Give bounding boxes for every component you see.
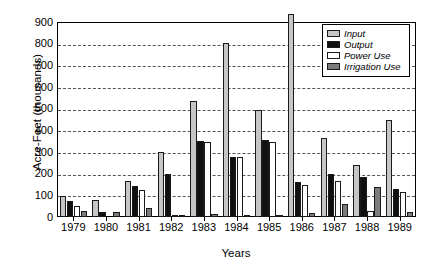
- bar-input-1981: [125, 181, 131, 217]
- bar-irrigation-use-1988: [374, 187, 380, 217]
- bar-power-use-1985: [269, 142, 275, 217]
- bar-input-1985: [255, 110, 261, 217]
- bar-irrigation-use-1984: [244, 215, 250, 217]
- legend-label-input: Input: [344, 29, 365, 39]
- legend-label-irrigation-use: Irrigation Use: [344, 62, 401, 72]
- y-tick-200: 200: [13, 168, 53, 179]
- x-tick-mark-1988: [367, 217, 368, 221]
- bar-input-1980: [92, 200, 98, 217]
- bar-power-use-1987: [335, 181, 341, 217]
- bar-input-1987: [321, 138, 327, 217]
- legend-swatch-output-icon: [327, 41, 340, 48]
- bar-group-1982: [158, 12, 185, 217]
- bar-input-1982: [158, 152, 164, 217]
- legend-swatch-input-icon: [327, 30, 340, 37]
- legend-item-output: Output: [327, 40, 405, 51]
- bar-irrigation-use-1980: [113, 212, 119, 217]
- y-tick-500: 500: [13, 103, 53, 114]
- bar-input-1984: [223, 43, 229, 217]
- bar-irrigation-use-1989: [407, 212, 413, 217]
- bar-output-1989: [393, 189, 399, 217]
- x-tick-mark-1981: [139, 217, 140, 221]
- x-tick-mark-1989: [400, 217, 401, 221]
- x-tick-mark-1984: [237, 217, 238, 221]
- bar-input-1979: [60, 196, 66, 217]
- bar-input-1986: [288, 14, 294, 217]
- bar-input-1988: [353, 165, 359, 217]
- bar-power-use-1982: [172, 215, 178, 217]
- x-tick-mark-1986: [302, 217, 303, 221]
- bar-chart: Acre-Feet (thousands) 010020030040050060…: [0, 0, 432, 270]
- bar-power-use-1989: [400, 192, 406, 217]
- bar-irrigation-use-1985: [276, 215, 282, 217]
- x-tick-mark-1979: [73, 217, 74, 221]
- bar-group-1985: [255, 12, 282, 217]
- bar-group-1980: [92, 12, 119, 217]
- bar-irrigation-use-1983: [211, 214, 217, 217]
- legend-item-input: Input: [327, 29, 405, 40]
- bar-input-1989: [386, 120, 392, 218]
- y-tick-800: 800: [13, 38, 53, 49]
- y-tick-900: 900: [13, 17, 53, 28]
- bar-irrigation-use-1987: [342, 204, 348, 217]
- x-tick-mark-1983: [204, 217, 205, 221]
- bar-output-1987: [328, 174, 334, 217]
- bar-group-1984: [223, 12, 250, 217]
- bar-group-1986: [288, 12, 315, 217]
- bar-output-1980: [99, 212, 105, 217]
- legend-swatch-irrigation-use-icon: [327, 63, 340, 70]
- y-tick-100: 100: [13, 190, 53, 201]
- bar-output-1988: [360, 177, 366, 217]
- bar-irrigation-use-1982: [179, 215, 185, 217]
- x-tick-mark-1985: [269, 217, 270, 221]
- legend-label-power-use: Power Use: [344, 51, 390, 61]
- bar-output-1983: [197, 141, 203, 217]
- bar-output-1981: [132, 186, 138, 217]
- bar-output-1979: [67, 201, 73, 217]
- bar-group-1979: [60, 12, 87, 217]
- bar-input-1983: [190, 101, 196, 217]
- bar-output-1984: [230, 157, 236, 217]
- bar-group-1981: [125, 12, 152, 217]
- bar-output-1986: [295, 182, 301, 217]
- x-tick-mark-1980: [106, 217, 107, 221]
- bar-power-use-1988: [367, 211, 373, 218]
- bar-output-1982: [165, 174, 171, 217]
- x-tick-mark-1987: [334, 217, 335, 221]
- bar-irrigation-use-1986: [309, 213, 315, 217]
- x-axis-title: Years: [56, 247, 416, 259]
- legend-item-irrigation-use: Irrigation Use: [327, 62, 405, 73]
- y-tick-700: 700: [13, 60, 53, 71]
- chart-legend: Input Output Power Use Irrigation Use: [322, 24, 410, 77]
- bar-power-use-1983: [204, 142, 210, 217]
- legend-item-power-use: Power Use: [327, 51, 405, 62]
- bar-irrigation-use-1979: [81, 211, 87, 218]
- bar-irrigation-use-1981: [146, 208, 152, 217]
- y-tick-400: 400: [13, 125, 53, 136]
- bar-group-1983: [190, 12, 217, 217]
- bar-power-use-1979: [74, 206, 80, 217]
- bar-power-use-1981: [139, 190, 145, 217]
- x-tick-1989: 1989: [370, 221, 430, 233]
- bar-power-use-1986: [302, 185, 308, 218]
- legend-label-output: Output: [344, 40, 373, 50]
- bar-power-use-1984: [237, 157, 243, 217]
- legend-swatch-power-use-icon: [327, 52, 340, 59]
- y-tick-600: 600: [13, 82, 53, 93]
- y-tick-300: 300: [13, 147, 53, 158]
- x-tick-mark-1982: [171, 217, 172, 221]
- bar-output-1985: [262, 140, 268, 217]
